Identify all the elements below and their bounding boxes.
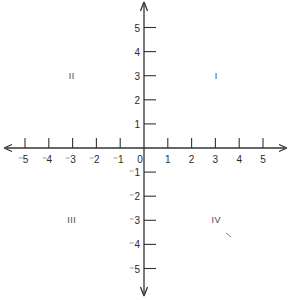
quadrant-label-iii: III: [67, 215, 76, 225]
stray-mark: [226, 233, 231, 237]
quadrant-label-iv: IV: [212, 215, 222, 225]
quadrant-label-ii: II: [69, 71, 75, 81]
y-tick-label: 2: [134, 95, 140, 106]
x-tick-label: ⁻3: [65, 154, 76, 165]
y-tick-label: ⁻4: [129, 239, 140, 250]
x-tick-label: ⁻1: [113, 154, 124, 165]
x-tick-label: 4: [236, 154, 242, 165]
x-tick-label: 5: [260, 154, 266, 165]
y-tick-label: ⁻3: [129, 215, 140, 226]
x-tick-label: ⁻4: [42, 154, 53, 165]
x-tick-label: ⁻5: [18, 154, 29, 165]
x-tick-label: 3: [213, 154, 219, 165]
y-tick-label: 4: [134, 47, 140, 58]
y-tick-label: 1: [134, 119, 140, 130]
x-tick-label: 0: [137, 154, 143, 165]
y-tick-label: ⁻2: [129, 191, 140, 202]
x-axis-ticks: ⁻5⁻4⁻3⁻2⁻1012345: [18, 138, 267, 165]
y-tick-label: ⁻1: [129, 167, 140, 178]
quadrant-label-i: I: [215, 71, 218, 81]
x-axis: ⁻5⁻4⁻3⁻2⁻1012345: [4, 138, 287, 165]
y-axis: 54321⁻1⁻2⁻3⁻4⁻5: [129, 2, 156, 296]
y-tick-label: 5: [134, 23, 140, 34]
coordinate-plane: ⁻5⁻4⁻3⁻2⁻1012345 54321⁻1⁻2⁻3⁻4⁻5 IIIIIII…: [0, 0, 291, 300]
x-tick-label: ⁻2: [89, 154, 100, 165]
y-tick-label: ⁻5: [129, 264, 140, 275]
x-tick-label: 1: [165, 154, 171, 165]
x-tick-label: 2: [189, 154, 195, 165]
y-tick-label: 3: [134, 71, 140, 82]
